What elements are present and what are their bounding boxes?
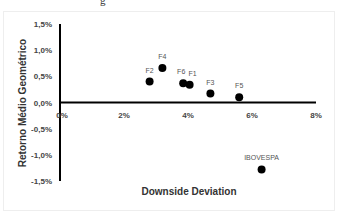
data-point (158, 64, 166, 72)
data-point (235, 93, 243, 101)
data-label: F4 (158, 53, 166, 60)
data-label: F3 (206, 79, 214, 86)
y-tick-label: 1,5% (34, 20, 52, 29)
y-tick-label: 1,0% (34, 46, 52, 55)
data-point (146, 78, 154, 86)
scatter-chart: 1,5%1,0%0,5%0,0%-0,5%-1,0%-1,5%0%2%4%6%8… (0, 0, 338, 217)
x-tick-label: 4% (182, 111, 194, 120)
data-label: F5 (235, 82, 243, 89)
data-point (206, 90, 214, 98)
y-tick-label: -0,5% (31, 125, 52, 134)
y-tick-label: -1,5% (31, 177, 52, 186)
data-label: F6 (177, 68, 185, 75)
y-axis-title: Retorno Médio Geométrico (17, 39, 28, 167)
data-label: F2 (146, 67, 154, 74)
x-tick-label: 8% (310, 111, 322, 120)
x-axis-title: Downside Deviation (141, 186, 236, 197)
y-tick-label: -1,0% (31, 151, 52, 160)
data-point (258, 165, 266, 173)
x-tick-label: 2% (118, 111, 130, 120)
data-point (186, 81, 194, 89)
x-tick-label: 6% (246, 111, 258, 120)
data-label: IBOVESPA (244, 154, 279, 161)
data-label: F1 (189, 70, 197, 77)
y-tick-label: 0,0% (34, 99, 52, 108)
x-tick-label: 0% (56, 111, 68, 120)
y-tick-label: 0,5% (34, 72, 52, 81)
